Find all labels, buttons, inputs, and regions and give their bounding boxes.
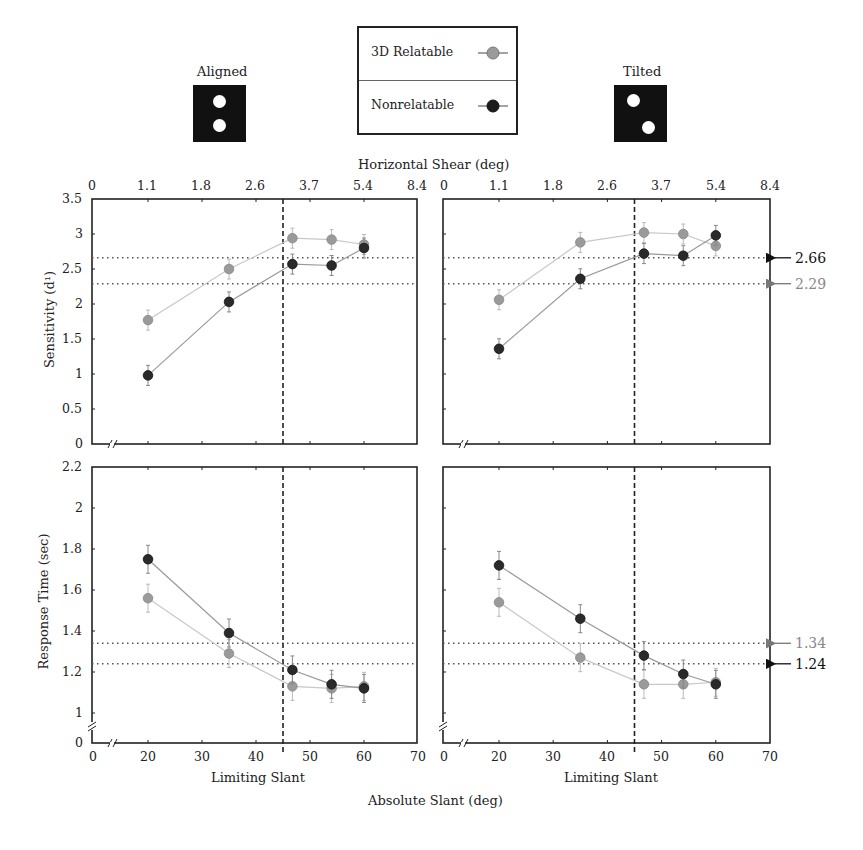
data-point <box>143 315 153 325</box>
plot-frame <box>443 467 770 743</box>
data-point <box>639 249 649 259</box>
data-point <box>224 628 234 638</box>
data-point <box>494 344 504 354</box>
data-point <box>494 295 504 305</box>
data-point <box>288 233 298 243</box>
data-point <box>359 684 369 694</box>
data-point <box>678 669 688 679</box>
data-point <box>143 371 153 381</box>
data-point <box>678 251 688 261</box>
data-point <box>327 261 337 271</box>
plot-frame <box>92 199 417 444</box>
data-point <box>639 651 649 661</box>
data-point <box>224 649 234 659</box>
data-point <box>224 297 234 307</box>
data-point <box>576 614 586 624</box>
data-point <box>224 264 234 274</box>
data-point <box>711 231 721 241</box>
plot-canvas <box>0 0 863 850</box>
data-point <box>359 243 369 253</box>
data-point <box>576 274 586 284</box>
data-point <box>327 235 337 245</box>
data-point <box>143 593 153 603</box>
data-point <box>678 229 688 239</box>
data-point <box>143 554 153 564</box>
data-point <box>494 561 504 571</box>
plot-frame <box>92 467 417 743</box>
data-point <box>576 238 586 248</box>
data-point <box>288 665 298 675</box>
data-point <box>639 680 649 690</box>
data-point <box>327 680 337 690</box>
data-point <box>639 228 649 238</box>
data-point <box>576 653 586 663</box>
data-point <box>711 680 721 690</box>
data-point <box>494 598 504 608</box>
data-point <box>288 259 298 269</box>
